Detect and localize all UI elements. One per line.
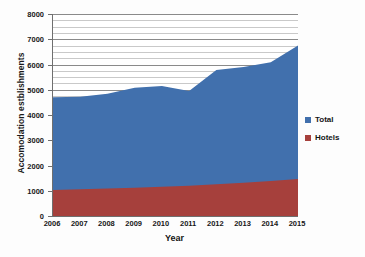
plot-inner xyxy=(53,14,298,216)
y-tick-label: 2000 xyxy=(14,161,44,170)
series-areas xyxy=(53,14,298,216)
x-tick-label: 2012 xyxy=(207,219,224,228)
y-tick-label: 5000 xyxy=(14,85,44,94)
y-tick-label: 3000 xyxy=(14,136,44,145)
legend-swatch-icon xyxy=(305,135,311,141)
x-tick-label: 2007 xyxy=(71,219,88,228)
y-tick-label: 8000 xyxy=(14,10,44,19)
x-tick-label: 2009 xyxy=(125,219,142,228)
x-tick-label: 2014 xyxy=(261,219,278,228)
y-tick-label: 4000 xyxy=(14,111,44,120)
plot-area xyxy=(52,14,298,217)
legend-item[interactable]: Total xyxy=(305,115,339,124)
y-tick-label: 1000 xyxy=(14,186,44,195)
chart-legend: TotalHotels xyxy=(305,115,339,142)
x-axis-title: Year xyxy=(52,233,297,243)
legend-label: Total xyxy=(315,115,334,124)
y-tick-label: 6000 xyxy=(14,60,44,69)
legend-swatch-icon xyxy=(305,117,311,123)
x-tick-label: 2006 xyxy=(44,219,61,228)
x-axis-ticks: 2006200720082009201020112012201320142015 xyxy=(0,219,365,233)
area-chart: Accomodation estblishments 0100020003000… xyxy=(0,0,365,257)
legend-label: Hotels xyxy=(315,133,339,142)
legend-item[interactable]: Hotels xyxy=(305,133,339,142)
x-tick-label: 2013 xyxy=(234,219,251,228)
x-tick-label: 2011 xyxy=(180,219,196,228)
x-tick-label: 2008 xyxy=(98,219,115,228)
x-tick-label: 2015 xyxy=(289,219,306,228)
y-tick-label: 7000 xyxy=(14,35,44,44)
x-tick-label: 2010 xyxy=(153,219,170,228)
